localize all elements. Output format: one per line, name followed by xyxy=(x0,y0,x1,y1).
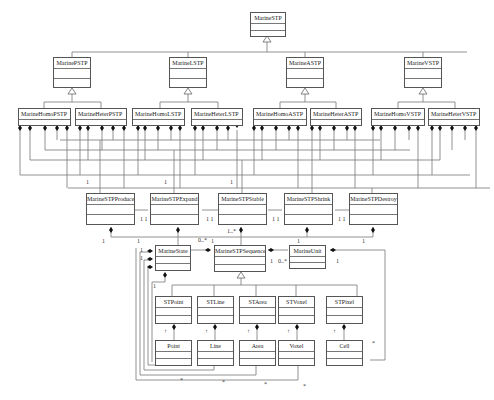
class-attributes xyxy=(254,120,306,125)
multiplicity-label: 1 xyxy=(362,238,365,244)
class-attributes xyxy=(198,352,233,359)
class-attributes xyxy=(240,352,275,359)
class-point: Point xyxy=(155,340,192,366)
class-operations xyxy=(54,79,90,88)
class-attributes xyxy=(219,205,266,215)
multiplicity-arrow: ↑ xyxy=(205,328,208,334)
class-name: STPoint xyxy=(156,297,191,308)
class-name: MarineSTPProduce xyxy=(87,194,134,205)
class-operations xyxy=(156,264,190,270)
class-st-point: STPoint xyxy=(155,296,192,324)
class-marine-homo-vstp: MarineHomoVSTP xyxy=(371,108,425,126)
class-name: MarineSTPStable xyxy=(219,194,266,205)
class-attributes xyxy=(350,205,397,215)
multiplicity-label: * xyxy=(180,377,183,383)
multiplicity-label: * xyxy=(303,383,306,389)
class-attributes xyxy=(311,120,361,125)
multiplicity-label: * xyxy=(372,340,375,346)
class-attributes xyxy=(285,205,332,215)
class-name: Area xyxy=(240,341,275,352)
class-operations xyxy=(219,215,266,224)
multiplicity-label: 1 xyxy=(140,247,143,253)
class-name: MarineSTPExpand xyxy=(151,194,198,205)
class-name: STLine xyxy=(198,297,233,308)
class-st-voxel: STVoxel xyxy=(278,296,315,324)
class-marine-unit: MarineUnit xyxy=(289,245,326,269)
multiplicity-label: 1 xyxy=(270,258,273,264)
class-attributes xyxy=(156,308,191,316)
class-name: MarineLSTP xyxy=(170,58,206,69)
multiplicity-label: 1 xyxy=(336,258,339,264)
class-attributes xyxy=(54,69,90,79)
class-operations xyxy=(405,79,441,88)
class-operations xyxy=(350,215,397,224)
class-name: MarineHomoLSTP xyxy=(133,109,184,120)
class-st-line: STLine xyxy=(197,296,234,324)
class-name: MarineHeterLSTP xyxy=(192,109,242,120)
class-attributes xyxy=(192,120,242,125)
class-operations xyxy=(151,215,198,224)
class-attributes xyxy=(170,69,206,79)
class-marine-stp-sequence: MarineSTPSequence xyxy=(214,245,266,272)
class-marine-state: MarineState xyxy=(155,245,191,271)
multiplicity-arrow: ↑ xyxy=(247,328,250,334)
multiplicity-label: 1 xyxy=(86,179,89,185)
class-name: MarineSTPSequence xyxy=(215,246,265,257)
multiplicity-label: 1..* xyxy=(227,228,236,234)
class-attributes xyxy=(156,257,190,264)
multiplicity-label: 1 xyxy=(153,283,156,289)
class-name: MarineASTP xyxy=(287,58,323,69)
class-name: MarineHomoASTP xyxy=(254,109,306,120)
class-operations xyxy=(156,359,191,365)
multiplicity-label: 1 xyxy=(137,238,140,244)
multiplicity-label: 1 xyxy=(230,179,233,185)
class-operations xyxy=(285,215,332,224)
class-attributes xyxy=(133,120,184,125)
class-name: STPixel xyxy=(327,297,362,308)
class-st-pixel: STPixel xyxy=(326,296,363,324)
class-marine-pstp: MarinePSTP xyxy=(53,57,91,88)
class-marine-stp-expand: MarineSTPExpand xyxy=(150,193,199,225)
class-attributes xyxy=(198,308,233,316)
class-attributes xyxy=(151,205,198,215)
class-attributes xyxy=(279,352,314,359)
class-name: MarineHeterPSTP xyxy=(76,109,126,120)
class-marine-heter-lstp: MarineHeterLSTP xyxy=(191,108,243,126)
multiplicity-label: 1 1 xyxy=(206,216,214,222)
class-name: Cell xyxy=(327,341,362,352)
class-marine-stp-destroy: MarineSTPDestroy xyxy=(349,193,398,225)
class-marine-homo-astp: MarineHomoASTP xyxy=(253,108,307,126)
multiplicity-label: 0..* xyxy=(198,237,207,243)
class-operations xyxy=(279,359,314,365)
class-operations xyxy=(170,79,206,88)
class-name: Line xyxy=(198,341,233,352)
class-name: MarineSTPShrink xyxy=(285,194,332,205)
class-name: MarineHeterVSTP xyxy=(429,109,479,120)
multiplicity-arrow: ↑ xyxy=(164,328,167,334)
class-operations xyxy=(287,79,323,88)
class-area: Area xyxy=(239,340,276,366)
multiplicity-label: * xyxy=(264,381,267,387)
class-marine-stp-shrink: MarineSTPShrink xyxy=(284,193,333,225)
class-operations xyxy=(240,359,275,365)
class-marine-homo-pstp: MarineHomoPSTP xyxy=(18,108,71,126)
class-attributes xyxy=(287,69,323,79)
class-attributes xyxy=(327,352,362,359)
class-attributes xyxy=(87,205,134,215)
class-voxel: Voxel xyxy=(278,340,315,366)
class-name: MarineState xyxy=(156,246,190,257)
class-operations xyxy=(156,316,191,323)
class-operations xyxy=(215,265,265,272)
multiplicity-label: * xyxy=(222,379,225,385)
class-operations xyxy=(198,359,233,365)
class-st-area: STArea xyxy=(239,296,276,324)
class-name: Voxel xyxy=(279,341,314,352)
class-marine-heter-pstp: MarineHeterPSTP xyxy=(75,108,127,126)
class-marine-stp-stable: MarineSTPStable xyxy=(218,193,267,225)
multiplicity-label: 1 1 xyxy=(140,216,148,222)
class-operations xyxy=(198,316,233,323)
class-attributes xyxy=(327,308,362,316)
class-marine-stp-produce: MarineSTPProduce xyxy=(86,193,135,225)
multiplicity-label: 1 1 xyxy=(338,216,346,222)
class-attributes xyxy=(76,120,126,125)
